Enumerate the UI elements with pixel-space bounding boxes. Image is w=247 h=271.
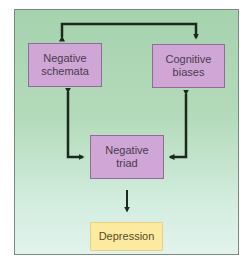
node-label-line2: biases bbox=[166, 66, 212, 79]
node-negative-triad: Negative triad bbox=[90, 135, 164, 179]
node-negative-schemata: Negative schemata bbox=[28, 43, 102, 87]
node-label-line2: triad bbox=[105, 157, 148, 170]
node-label-line1: Cognitive bbox=[166, 53, 212, 66]
arrow-biases-triad bbox=[170, 94, 186, 157]
node-label-line2: schemata bbox=[41, 65, 89, 78]
arrow-schemata-triad bbox=[68, 92, 83, 157]
node-cognitive-biases: Cognitive biases bbox=[152, 44, 225, 88]
node-label: Depression bbox=[99, 230, 155, 243]
arrow-schemata-biases bbox=[62, 24, 196, 38]
node-label-line1: Negative bbox=[105, 144, 148, 157]
node-label-line1: Negative bbox=[41, 52, 89, 65]
node-depression: Depression bbox=[90, 222, 163, 251]
